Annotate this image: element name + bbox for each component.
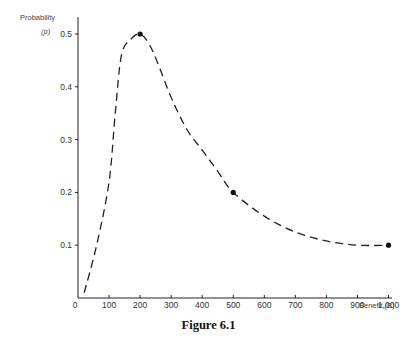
x-tick-label: 100 <box>102 300 116 310</box>
x-axis-title: Benefit (B) <box>359 301 395 310</box>
data-point <box>386 243 391 248</box>
figure-caption: Figure 6.1 <box>0 318 417 333</box>
x-tick-label: 800 <box>319 300 333 310</box>
x-tick-label: 700 <box>288 300 302 310</box>
y-axis-title-line2: (p) <box>41 27 51 36</box>
x-tick-label: 500 <box>226 300 240 310</box>
x-tick-label: 0 <box>73 300 78 310</box>
y-tick-label: 0.3 <box>60 135 72 145</box>
x-ticks: 01002003004005006007008009001,000 <box>73 295 400 310</box>
y-tick-label: 0.1 <box>60 240 72 250</box>
x-tick-label: 400 <box>195 300 209 310</box>
probability-curve <box>84 34 388 293</box>
x-tick-label: 200 <box>133 300 147 310</box>
y-ticks: 0.10.20.30.40.5 <box>60 29 78 250</box>
y-tick-label: 0.2 <box>60 187 72 197</box>
chart-canvas: 01002003004005006007008009001,000 0.10.2… <box>0 0 417 338</box>
data-point <box>231 190 236 195</box>
data-point <box>138 31 143 36</box>
y-tick-label: 0.4 <box>60 82 72 92</box>
y-tick-label: 0.5 <box>60 29 72 39</box>
data-point-markers <box>138 31 392 247</box>
y-axis-title-line1: Probability <box>20 13 55 22</box>
x-tick-label: 300 <box>164 300 178 310</box>
x-tick-label: 600 <box>257 300 271 310</box>
